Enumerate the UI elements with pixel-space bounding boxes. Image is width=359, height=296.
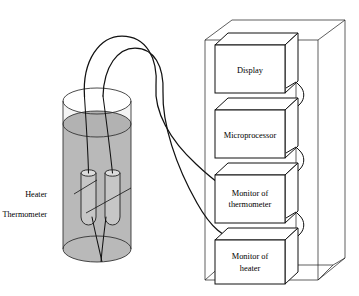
probe-thermometer xyxy=(81,170,96,225)
module-microprocessor[interactable]: Microprocessor xyxy=(215,98,298,158)
module-display-label-line1: Display xyxy=(237,66,264,75)
vessel-rim xyxy=(63,88,131,114)
probe-heater xyxy=(105,170,120,225)
module-monitor-heater-top xyxy=(215,228,298,240)
module-monitor-thermometer-label-line2: thermometer xyxy=(229,200,272,209)
cabinet-floor-corner xyxy=(333,258,345,265)
module-monitor-thermometer-front xyxy=(215,175,285,223)
module-monitor-heater-label-line1: Monitor of xyxy=(232,252,269,261)
vessel-group xyxy=(63,88,131,262)
module-monitor-heater-front xyxy=(215,240,285,284)
module-display-top xyxy=(215,33,298,45)
callout-label-thermometer: Thermometer xyxy=(2,210,47,219)
module-monitor-thermometer[interactable]: Monitor of thermometer xyxy=(215,163,298,223)
cabinet-floor-right-diag xyxy=(318,265,333,280)
liquid-surface xyxy=(63,111,131,137)
probe-thermometer-body xyxy=(81,173,96,225)
diagram-canvas: Display Microprocessor Monitor of thermo… xyxy=(0,0,359,296)
module-microprocessor-top xyxy=(215,98,298,110)
callout-label-heater: Heater xyxy=(25,190,47,199)
module-monitor-thermometer-top xyxy=(215,163,298,175)
module-monitor-heater[interactable]: Monitor of heater xyxy=(215,228,298,284)
cabinet-right-bottom xyxy=(318,258,345,280)
apparatus-diagram: Display Microprocessor Monitor of thermo… xyxy=(0,0,359,296)
module-monitor-heater-label-line2: heater xyxy=(240,264,261,273)
module-monitor-thermometer-label-line1: Monitor of xyxy=(232,189,269,198)
module-display[interactable]: Display xyxy=(215,33,298,93)
probe-heater-body xyxy=(105,173,120,225)
module-microprocessor-label-line1: Microprocessor xyxy=(224,131,277,140)
